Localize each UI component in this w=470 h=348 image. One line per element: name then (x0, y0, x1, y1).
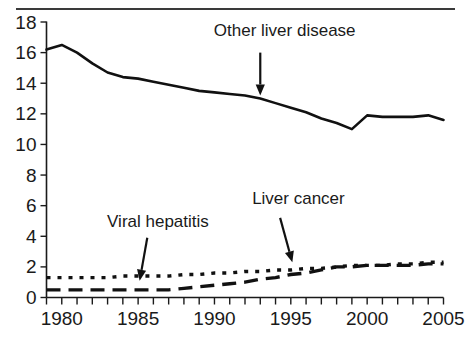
chart-background (0, 0, 470, 348)
annotation-label-liver-cancer: Liver cancer (252, 189, 345, 208)
y-tick-label: 10 (15, 134, 36, 155)
annotation-label-viral-hepatitis: Viral hepatitis (107, 212, 209, 231)
y-tick-label: 8 (26, 165, 37, 186)
chart-figure: 024681012141618 198019851990199520002005… (0, 0, 470, 348)
x-tick-label: 1990 (193, 308, 235, 329)
annotation-label-other-liver-disease: Other liver disease (214, 21, 356, 40)
y-tick-label: 0 (26, 287, 37, 308)
y-tick-label: 12 (15, 103, 36, 124)
y-tick-label: 14 (15, 73, 37, 94)
x-tick-label: 1995 (270, 308, 312, 329)
y-tick-label: 16 (15, 42, 36, 63)
x-tick-label: 1980 (41, 308, 83, 329)
x-tick-label: 1985 (117, 308, 159, 329)
x-tick-label: 2005 (422, 308, 464, 329)
y-tick-label: 4 (26, 226, 37, 247)
y-tick-label: 2 (26, 256, 37, 277)
y-tick-label: 6 (26, 195, 37, 216)
x-tick-label: 2000 (346, 308, 388, 329)
line-chart: 024681012141618 198019851990199520002005… (0, 0, 470, 348)
y-tick-label: 18 (15, 12, 36, 33)
